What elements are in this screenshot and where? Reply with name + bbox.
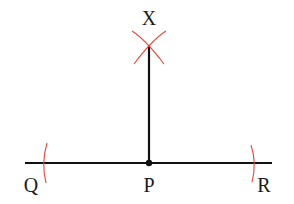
point-p — [146, 160, 152, 166]
label-q: Q — [24, 174, 39, 196]
label-r: R — [257, 174, 271, 196]
label-x: X — [142, 7, 157, 29]
perpendicular-construction-diagram: X Q P R — [0, 0, 294, 204]
label-p: P — [143, 174, 154, 196]
